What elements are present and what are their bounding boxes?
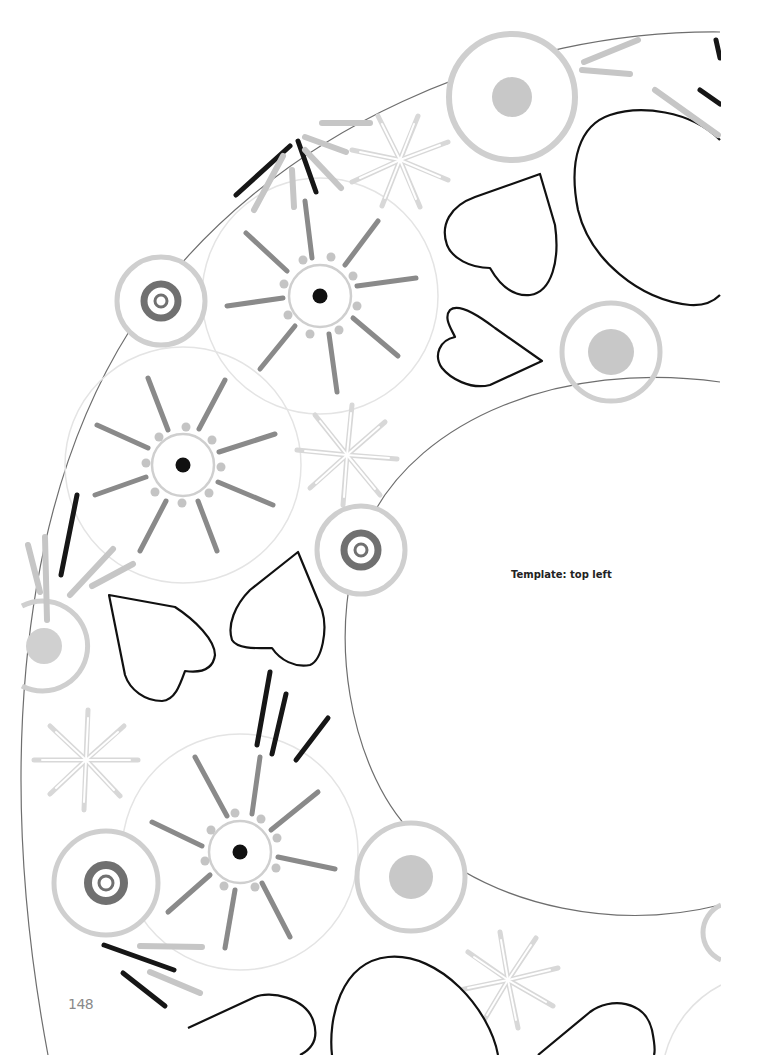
target-circle-icon [317,506,405,594]
oval-icon [575,110,720,305]
page-number: 148 [68,996,93,1012]
sun-flower-icon [227,201,416,392]
template-label: Template: top left [511,569,612,580]
dot-circle-icon [357,823,465,931]
target-circle-icon [54,831,158,935]
dot-circle-icon [562,303,660,401]
oval-icon [331,957,498,1055]
dot-circle-icon [449,34,575,160]
sparkle-icon [297,405,397,505]
page-margin [721,0,767,1055]
coloring-page: Template: top left 148 [0,0,767,1055]
sparkle-icon [34,710,138,810]
heart-icon [109,595,215,701]
heart-icon [188,995,315,1055]
heart-icon [231,552,325,666]
sparkle-icon [352,116,448,207]
target-circle-icon [117,257,205,345]
sun-flower-icon [152,757,335,948]
heart-icon [438,308,542,386]
sun-flower-icon [95,378,275,551]
heart-icon [445,174,557,295]
wreath-artwork [0,0,767,1055]
dot-circle-icon [665,905,721,1055]
heart-icon [538,1003,655,1055]
